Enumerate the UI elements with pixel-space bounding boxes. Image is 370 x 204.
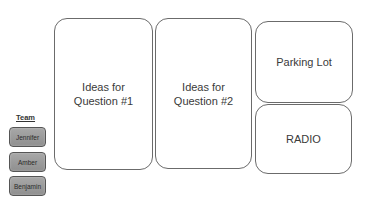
board-label: Parking Lot bbox=[276, 55, 332, 69]
board-ideas-question-1[interactable]: Ideas for Question #1 bbox=[54, 18, 153, 170]
team-member-amber[interactable]: Amber bbox=[9, 152, 46, 172]
board-radio[interactable]: RADIO bbox=[255, 104, 352, 174]
team-member-jennifer[interactable]: Jennifer bbox=[9, 127, 46, 147]
board-label: RADIO bbox=[286, 132, 321, 146]
member-name: Benjamin bbox=[14, 183, 41, 190]
board-ideas-question-2[interactable]: Ideas for Question #2 bbox=[155, 18, 252, 169]
board-parking-lot[interactable]: Parking Lot bbox=[255, 21, 353, 103]
member-name: Jennifer bbox=[16, 134, 39, 141]
board-label: Ideas for Question #1 bbox=[74, 80, 133, 108]
team-member-benjamin[interactable]: Benjamin bbox=[9, 176, 46, 196]
board-label: Ideas for Question #2 bbox=[174, 80, 233, 108]
member-name: Amber bbox=[18, 159, 37, 166]
team-heading: Team bbox=[16, 113, 35, 122]
